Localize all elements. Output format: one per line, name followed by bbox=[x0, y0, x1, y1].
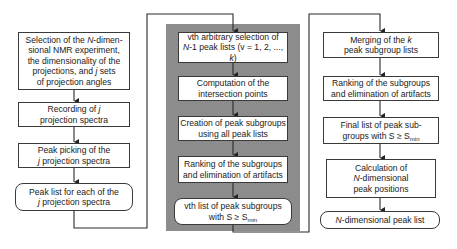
step-merge-lists: Merging of the kpeak subgroup lists bbox=[323, 32, 439, 58]
step-label: vth arbitrary selection ofN-1 peak lists… bbox=[179, 32, 287, 63]
step-vth-list: vth list of peak subgroupswith S ≥ Smin bbox=[174, 198, 292, 225]
step-label: Peak list for each of thej projection sp… bbox=[29, 187, 119, 208]
step-intersection-points: Computation of theintersection points bbox=[178, 76, 288, 101]
step-arbitrary-selection: vth arbitrary selection ofN-1 peak lists… bbox=[178, 32, 288, 63]
step-rank-subgroups-mid: Ranking of the subgroupsand elimination … bbox=[178, 156, 288, 183]
step-calc-positions: Calculation ofN-dimensionalpeak position… bbox=[326, 159, 436, 198]
step-create-subgroups: Creation of peak subgroupsusing all peak… bbox=[178, 116, 288, 141]
step-label: N-dimensional peak list bbox=[336, 215, 425, 225]
step-final-peak-list: N-dimensional peak list bbox=[320, 211, 440, 229]
step-peak-picking: Peak picking of thej projection spectra bbox=[18, 143, 130, 168]
step-record-spectra: Recording of jprojection spectra bbox=[18, 102, 130, 127]
step-final-list: Final list of peak sub-groups with S ≥ S… bbox=[323, 117, 439, 144]
step-label: Selection of the N-dimen-sional NMR expe… bbox=[26, 35, 123, 87]
step-label: Creation of peak subgroupsusing all peak… bbox=[180, 118, 286, 139]
step-label: Ranking of the subgroupsand elimination … bbox=[331, 78, 431, 99]
step-label: vth list of peak subgroupswith S ≥ Smin bbox=[184, 201, 281, 222]
step-select-experiment: Selection of the N-dimen-sional NMR expe… bbox=[18, 32, 130, 90]
step-label: Ranking of the subgroupsand elimination … bbox=[183, 159, 283, 180]
step-label: Recording of jprojection spectra bbox=[40, 104, 108, 125]
step-rank-subgroups-right: Ranking of the subgroupsand elimination … bbox=[323, 76, 439, 101]
step-label: Peak picking of thej projection spectra bbox=[38, 145, 111, 166]
step-label: Merging of the kpeak subgroup lists bbox=[344, 35, 418, 56]
step-label: Calculation ofN-dimensionalpeak position… bbox=[354, 163, 409, 194]
step-peak-list-each: Peak list for each of thej projection sp… bbox=[15, 183, 133, 211]
step-label: Final list of peak sub-groups with S ≥ S… bbox=[340, 120, 421, 141]
step-label: Computation of theintersection points bbox=[197, 78, 270, 99]
